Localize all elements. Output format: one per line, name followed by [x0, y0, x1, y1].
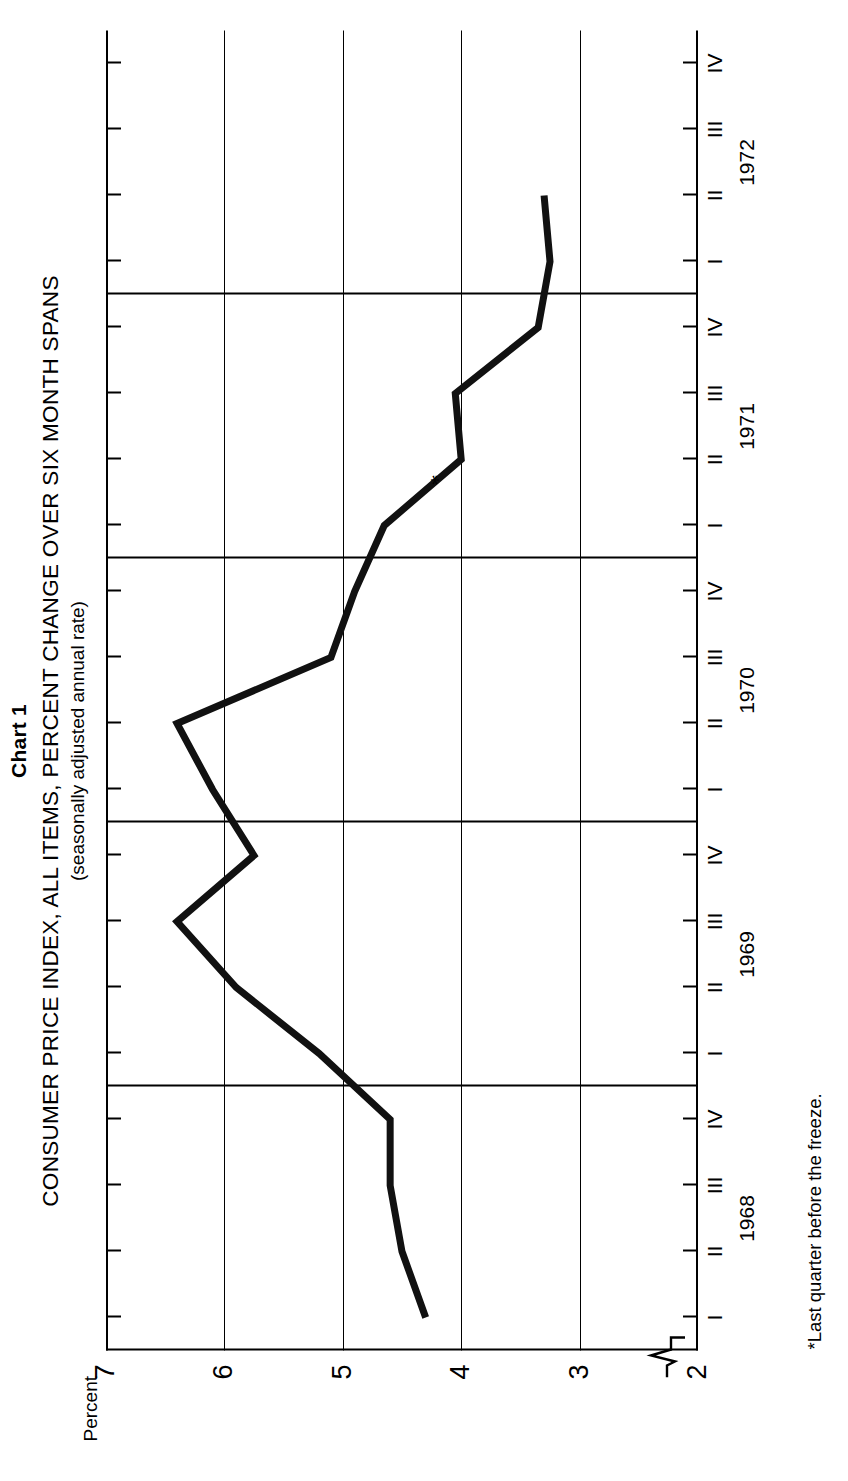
quarter-label: I [704, 503, 725, 547]
quarter-label: III [704, 899, 725, 943]
title-block: Chart 1 CONSUMER PRICE INDEX, ALL ITEMS,… [8, 0, 89, 1481]
quarter-label: I [704, 1031, 725, 1075]
year-label: 1971 [736, 381, 757, 471]
data-series [106, 30, 698, 1350]
quarter-label: III [704, 635, 725, 679]
quarter-label: IV [704, 1097, 725, 1141]
value-axis-tick-label: 2 [684, 1364, 711, 1424]
quarter-label: I [704, 767, 725, 811]
quarter-label: III [704, 1163, 725, 1207]
value-axis-tick-label: 5 [329, 1364, 356, 1424]
value-axis-tick-label: 6 [210, 1364, 237, 1424]
asterisk-annotation-marker: * [427, 474, 449, 485]
quarter-label: III [704, 371, 725, 415]
quarter-label: II [704, 965, 725, 1009]
quarter-label: IV [704, 305, 725, 349]
series-line [177, 195, 550, 1317]
value-axis-tick-label: 4 [447, 1364, 474, 1424]
quarter-label: II [704, 701, 725, 745]
chart-page: Chart 1 CONSUMER PRICE INDEX, ALL ITEMS,… [0, 0, 848, 1481]
year-label: 1970 [736, 645, 757, 735]
value-axis-tick-label: 3 [566, 1364, 593, 1424]
time-axis: IIIIIIIVIIIIIIIVIIIIIIIVIIIIIIIVIIIIIIIV… [700, 30, 796, 1350]
quarter-label: II [704, 1229, 725, 1273]
quarter-label: IV [704, 41, 725, 85]
year-label: 1972 [736, 117, 757, 207]
year-label: 1969 [736, 909, 757, 999]
chart-number: Chart 1 [8, 0, 30, 1481]
quarter-label: IV [704, 833, 725, 877]
quarter-label: III [704, 107, 725, 151]
value-axis-tick-label: 7 [92, 1364, 119, 1424]
footnote: *Last quarter before the freeze. [804, 1093, 826, 1349]
quarter-label: IV [704, 569, 725, 613]
quarter-label: II [704, 173, 725, 217]
year-label: 1968 [736, 1173, 757, 1263]
chart-subtitle: (seasonally adjusted annual rate) [68, 0, 89, 1481]
quarter-label: I [704, 239, 725, 283]
value-axis-ticks: 765432 [106, 1350, 698, 1481]
page-title: CONSUMER PRICE INDEX, ALL ITEMS, PERCENT… [39, 0, 64, 1481]
quarter-label: I [704, 1295, 725, 1339]
quarter-label: II [704, 437, 725, 481]
